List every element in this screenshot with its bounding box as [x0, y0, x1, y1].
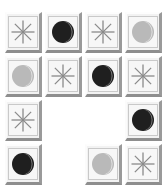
- light-moon-icon: [11, 64, 35, 88]
- tile[interactable]: [125, 12, 162, 53]
- tile-face: [8, 16, 38, 48]
- tile-face: [8, 148, 38, 180]
- tile-face: [128, 104, 158, 136]
- tile-face: [88, 148, 118, 180]
- dark-moon-icon: [51, 20, 75, 44]
- tile-face: [48, 60, 78, 92]
- tile-face: [48, 16, 78, 48]
- tile-grid: [4, 11, 164, 187]
- tile[interactable]: [5, 144, 42, 185]
- empty-cell: [44, 143, 84, 187]
- tile-cell[interactable]: [124, 143, 164, 187]
- tile-cell[interactable]: [4, 55, 44, 99]
- tile-cell[interactable]: [84, 55, 124, 99]
- tile[interactable]: [85, 56, 122, 97]
- asterisk-icon: [10, 19, 36, 45]
- light-moon-icon: [91, 152, 115, 176]
- tile-cell[interactable]: [124, 55, 164, 99]
- tile[interactable]: [85, 144, 122, 185]
- tile-cell[interactable]: [84, 143, 124, 187]
- tile-face: [8, 104, 38, 136]
- tile-face: [88, 16, 118, 48]
- asterisk-icon: [130, 63, 156, 89]
- asterisk-icon: [50, 63, 76, 89]
- tile-cell[interactable]: [4, 11, 44, 55]
- tile[interactable]: [5, 100, 42, 141]
- tile[interactable]: [125, 56, 162, 97]
- tile-face: [88, 60, 118, 92]
- asterisk-icon: [10, 107, 36, 133]
- tile[interactable]: [125, 144, 162, 185]
- tile[interactable]: [85, 12, 122, 53]
- empty-cell: [84, 99, 124, 143]
- tile-face: [128, 148, 158, 180]
- tile-cell[interactable]: [124, 11, 164, 55]
- asterisk-icon: [90, 19, 116, 45]
- dark-moon-icon: [11, 152, 35, 176]
- dark-moon-icon: [131, 108, 155, 132]
- tile-cell[interactable]: [124, 99, 164, 143]
- tile[interactable]: [125, 100, 162, 141]
- tile-cell[interactable]: [44, 55, 84, 99]
- light-moon-icon: [131, 20, 155, 44]
- puzzle-board: [0, 0, 167, 196]
- tile-cell[interactable]: [4, 143, 44, 187]
- tile[interactable]: [45, 56, 82, 97]
- dark-moon-icon: [91, 64, 115, 88]
- asterisk-icon: [130, 151, 156, 177]
- tile-cell[interactable]: [4, 99, 44, 143]
- tile-face: [128, 60, 158, 92]
- tile[interactable]: [5, 12, 42, 53]
- empty-cell: [44, 99, 84, 143]
- tile-face: [8, 60, 38, 92]
- tile-cell[interactable]: [84, 11, 124, 55]
- tile[interactable]: [45, 12, 82, 53]
- tile-face: [128, 16, 158, 48]
- tile-cell[interactable]: [44, 11, 84, 55]
- tile[interactable]: [5, 56, 42, 97]
